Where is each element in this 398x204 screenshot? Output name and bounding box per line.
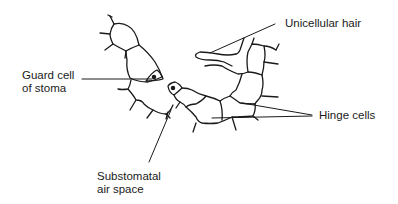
lower-left-wall — [118, 80, 173, 119]
upper-right-cells — [205, 38, 279, 104]
unicellular-hair-label: Unicellular hair — [285, 17, 361, 30]
left-epidermal-cells — [100, 15, 162, 82]
guard-cell-label: Guard cell of stoma — [22, 69, 74, 95]
hinge-cells-label: Hinge cells — [319, 109, 375, 122]
cell-drawing — [0, 0, 398, 204]
diagram-canvas: Guard cell of stoma Substomatal air spac… — [0, 0, 398, 204]
substomatal-label-line2: air space — [97, 183, 161, 196]
guard-cell-label-line1: Guard cell — [22, 69, 74, 82]
guard-cell-right — [168, 82, 182, 95]
right-epidermal-cells — [174, 88, 258, 132]
unicellular-hair — [196, 38, 245, 66]
substomatal-label: Substomatal air space — [97, 170, 161, 196]
substomatal-label-line1: Substomatal — [97, 170, 161, 183]
guard-cell-label-line2: of stoma — [22, 82, 74, 95]
